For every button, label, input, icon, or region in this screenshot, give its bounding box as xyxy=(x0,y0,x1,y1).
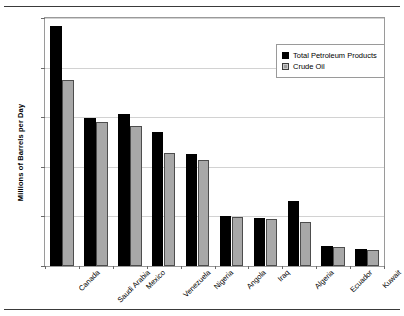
y-axis-tick xyxy=(41,68,45,69)
bar-group xyxy=(84,18,108,266)
bar xyxy=(186,154,198,266)
bar xyxy=(84,118,96,266)
x-axis-label: Venezuela xyxy=(181,268,212,299)
x-axis-label: Ecuador xyxy=(348,268,374,294)
bar xyxy=(367,250,379,266)
legend-item-crude-oil: Crude Oil xyxy=(282,62,377,71)
bar xyxy=(288,201,300,266)
bar xyxy=(62,80,74,266)
y-axis-title: Millions of Barrels per Day xyxy=(16,88,25,218)
bar xyxy=(300,222,312,266)
bar xyxy=(164,153,176,266)
legend-item-total-petroleum-products: Total Petroleum Products xyxy=(282,51,377,60)
bar xyxy=(96,122,108,266)
x-axis-labels: CanadaSaudi ArabiaMexicoVenezuelaNigeria… xyxy=(44,268,385,316)
x-axis-label: Canada xyxy=(77,268,102,293)
bar-group xyxy=(50,18,74,266)
y-axis-tick xyxy=(41,117,45,118)
plot-area: 00.51.01.52.02.5 Total Petroleum Product… xyxy=(44,17,385,267)
bar xyxy=(321,246,333,266)
y-axis-tick xyxy=(41,18,45,19)
bar xyxy=(130,126,142,266)
bar xyxy=(220,216,232,266)
legend-swatch-black-square-icon xyxy=(282,52,289,59)
bar xyxy=(232,217,244,266)
bar-group xyxy=(118,18,142,266)
chart-legend: Total Petroleum Products Crude Oil xyxy=(276,44,385,78)
legend-swatch-gray-square-icon xyxy=(282,63,289,70)
bar xyxy=(152,132,164,266)
legend-label: Total Petroleum Products xyxy=(293,51,377,60)
bar xyxy=(198,160,210,266)
bar xyxy=(254,218,266,266)
bar-group xyxy=(152,18,176,266)
x-axis-label: Nigeria xyxy=(212,268,235,291)
bar xyxy=(333,247,345,266)
x-axis-label: Algeria xyxy=(313,268,336,291)
bar-group xyxy=(220,18,244,266)
x-axis-label: Kuwait xyxy=(381,268,403,290)
bar xyxy=(355,249,367,266)
bar-group xyxy=(254,18,278,266)
chart-figure: Millions of Barrels per Day 00.51.01.52.… xyxy=(0,0,404,316)
bar xyxy=(118,114,130,266)
bar-group xyxy=(186,18,210,266)
x-axis-label: Angola xyxy=(245,268,268,291)
y-axis-tick xyxy=(41,216,45,217)
bar xyxy=(266,219,278,266)
top-divider-rule xyxy=(4,6,400,7)
bar xyxy=(50,26,62,266)
y-axis-tick xyxy=(41,167,45,168)
legend-label: Crude Oil xyxy=(293,62,325,71)
x-axis-label: Iraq xyxy=(276,268,292,284)
